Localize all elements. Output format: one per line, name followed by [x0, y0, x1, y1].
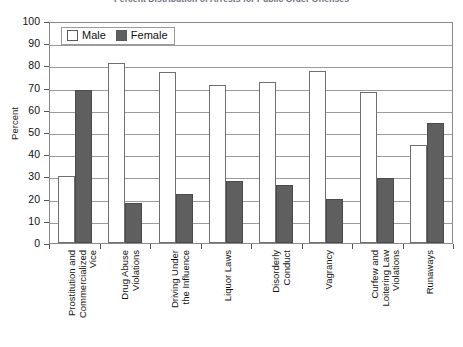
- bar-group: [402, 23, 452, 243]
- x-axis-tick-mark: [100, 244, 101, 249]
- bar-group: [100, 23, 150, 243]
- x-axis-label-cell: Driving Underthe Influence: [150, 250, 201, 347]
- x-axis-category-labels: Prostitution andCommercializedViceDrug A…: [49, 250, 453, 347]
- x-axis-category-label: Drug AbuseViolations: [120, 250, 141, 300]
- bar-group: [151, 23, 201, 243]
- bar-female[interactable]: [75, 90, 92, 243]
- x-axis-label-cell: DisorderlyConduct: [251, 250, 302, 347]
- x-axis-tick-mark: [201, 244, 202, 249]
- x-axis-label-line: Vagrancy: [324, 250, 335, 289]
- x-axis-label-line: Conduct: [282, 250, 293, 293]
- x-axis-tick-mark: [251, 244, 252, 249]
- y-axis-tick-label: 50: [10, 126, 40, 138]
- bar-series-container: [50, 23, 452, 243]
- y-axis-tick-label: 100: [10, 15, 40, 27]
- x-axis-category-label: Runaways: [425, 250, 436, 294]
- x-axis-tick-mark: [352, 244, 353, 249]
- bar-male[interactable]: [410, 145, 427, 243]
- x-axis-label-line: Liquor Laws: [223, 250, 234, 301]
- bar-male[interactable]: [360, 92, 377, 243]
- bar-female[interactable]: [226, 181, 243, 243]
- x-axis-label-line: Vice: [88, 250, 99, 318]
- x-axis-category-label: Vagrancy: [324, 250, 335, 289]
- y-axis-tick-label: 80: [10, 59, 40, 71]
- bar-male[interactable]: [159, 72, 176, 243]
- chart-legend: Male Female: [61, 27, 175, 45]
- bar-female[interactable]: [377, 178, 394, 243]
- x-axis-label-cell: Curfew andLoitering LawViolations: [352, 250, 403, 347]
- x-axis-label-cell: Prostitution andCommercializedVice: [49, 250, 100, 347]
- x-axis-label-cell: Vagrancy: [302, 250, 353, 347]
- bar-male[interactable]: [259, 82, 276, 243]
- bar-female[interactable]: [125, 203, 142, 243]
- male-swatch-icon: [67, 30, 78, 41]
- female-swatch-icon: [116, 30, 127, 41]
- bar-group: [50, 23, 100, 243]
- bar-group: [201, 23, 251, 243]
- bar-male[interactable]: [58, 176, 75, 243]
- x-axis-tick-mark: [49, 244, 50, 249]
- x-axis-label-line: Curfew and: [370, 250, 381, 307]
- bar-group: [352, 23, 402, 243]
- x-axis-label-line: Drug Abuse: [120, 250, 131, 300]
- bar-male[interactable]: [309, 71, 326, 243]
- y-axis-tick-label: 20: [10, 193, 40, 205]
- bar-female[interactable]: [427, 123, 444, 243]
- x-axis-label-line: Prostitution and: [67, 250, 78, 318]
- chart-root: Percent Distribution of Arrests for Publ…: [0, 0, 463, 347]
- x-axis-category-label: DisorderlyConduct: [271, 250, 292, 293]
- y-axis-tick-label: 0: [10, 237, 40, 249]
- legend-item-male[interactable]: Male: [67, 30, 106, 41]
- x-axis-label-cell: Runaways: [403, 250, 454, 347]
- y-axis-tick-label: 60: [10, 104, 40, 116]
- bar-male[interactable]: [108, 63, 125, 243]
- x-axis-tick-mark: [302, 244, 303, 249]
- bar-female[interactable]: [276, 185, 293, 243]
- bar-male[interactable]: [209, 85, 226, 243]
- x-axis-tick-mark: [403, 244, 404, 249]
- y-axis-tick-label: 30: [10, 170, 40, 182]
- x-axis-category-label: Driving Underthe Influence: [170, 250, 191, 308]
- y-axis-tick-label: 70: [10, 82, 40, 94]
- x-axis-label-line: Runaways: [425, 250, 436, 294]
- x-axis-tick-mark: [453, 244, 454, 249]
- bar-female[interactable]: [326, 199, 343, 243]
- x-axis-label-line: the Influence: [181, 250, 192, 308]
- bar-group: [301, 23, 351, 243]
- x-axis-category-label: Curfew andLoitering LawViolations: [370, 250, 402, 307]
- chart-title: Percent Distribution of Arrests for Publ…: [0, 0, 463, 2]
- x-axis-category-label: Prostitution andCommercializedVice: [67, 250, 99, 318]
- x-axis-label-cell: Liquor Laws: [201, 250, 252, 347]
- x-axis-label-line: Violations: [391, 250, 402, 307]
- legend-label-male: Male: [82, 30, 106, 41]
- y-axis-tick-label: 10: [10, 215, 40, 227]
- y-axis-tick-label: 90: [10, 37, 40, 49]
- x-axis-tick-mark: [150, 244, 151, 249]
- plot-area: [49, 22, 453, 244]
- bar-group: [251, 23, 301, 243]
- legend-item-female[interactable]: Female: [116, 30, 168, 41]
- x-axis-label-cell: Drug AbuseViolations: [100, 250, 151, 347]
- y-axis-tick-label: 40: [10, 148, 40, 160]
- x-axis-category-label: Liquor Laws: [223, 250, 234, 301]
- y-axis-title: Percent: [9, 94, 20, 154]
- bar-female[interactable]: [176, 194, 193, 243]
- legend-label-female: Female: [131, 30, 168, 41]
- x-axis-label-line: Violations: [130, 250, 141, 300]
